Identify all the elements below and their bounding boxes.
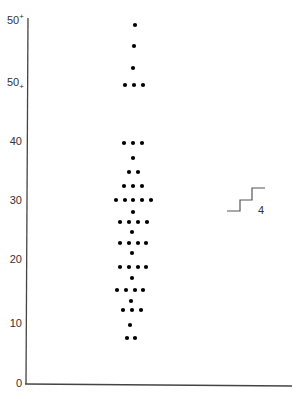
y-tick-labels: 01020304050+50+ [7,12,24,389]
data-point [122,184,126,188]
data-point [136,170,140,174]
data-point [118,220,122,224]
data-point [121,308,125,312]
data-point [136,241,140,245]
staircase-annotation: 4 [227,188,265,216]
data-point [131,66,135,70]
annotation-label: 4 [258,204,264,216]
y-axis [26,18,28,384]
data-point [140,141,144,145]
data-point [124,288,128,292]
data-point [123,83,127,87]
data-points [114,23,153,340]
data-point [129,299,133,303]
y-tick-label: 40 [10,135,22,147]
data-point [132,83,136,87]
data-point [118,241,122,245]
data-point [115,288,119,292]
y-tick-label: 10 [10,317,22,329]
data-point [131,198,135,202]
data-point [127,170,131,174]
data-point [133,23,137,27]
data-point [127,265,131,269]
data-point [144,241,148,245]
x-axis [25,384,292,386]
data-point [133,336,137,340]
y-tick-label: 50+ [7,12,24,26]
data-point [130,276,134,280]
data-point [136,265,140,269]
y-tick-label: 30 [10,194,22,206]
data-point [140,198,144,202]
data-point [114,198,118,202]
y-tick-label: 20 [10,253,22,265]
data-point [141,83,145,87]
y-tick-label: 0 [16,377,22,389]
data-point [131,184,135,188]
data-point [133,288,137,292]
data-point [145,220,149,224]
y-tick-label: 50+ [7,76,24,91]
data-point [131,156,135,160]
data-point [149,198,153,202]
data-point [127,241,131,245]
data-point [130,230,134,234]
data-point [127,220,131,224]
data-point [139,308,143,312]
data-point [131,210,135,214]
data-point [122,141,126,145]
data-point [141,288,145,292]
data-point [118,265,122,269]
data-point [128,323,132,327]
data-point [131,141,135,145]
data-point [136,220,140,224]
dot-plot-chart: 01020304050+50+ 4 [0,0,297,399]
data-point [144,265,148,269]
data-point [125,336,129,340]
data-point [130,308,134,312]
data-point [132,44,136,48]
data-point [130,251,134,255]
data-point [123,198,127,202]
data-point [140,184,144,188]
